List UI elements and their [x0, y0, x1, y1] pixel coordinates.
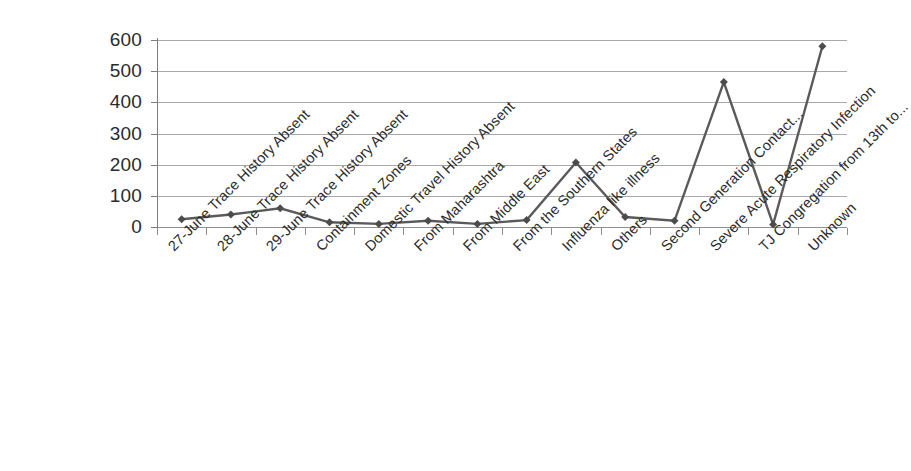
- x-tickmark-7: [502, 228, 503, 235]
- x-tickmark-0: [157, 228, 158, 235]
- x-tickmark-1: [206, 228, 207, 235]
- y-tickmark-300: [151, 134, 158, 135]
- y-tickmark-200: [151, 165, 158, 166]
- y-tickmark-400: [151, 102, 158, 103]
- x-category-label-3: Containment Zones: [313, 153, 414, 254]
- x-tickmark-4: [354, 228, 355, 235]
- x-tickmark-13: [798, 228, 799, 235]
- y-tickmark-600: [151, 40, 158, 41]
- x-tickmark-3: [305, 228, 306, 235]
- x-category-label-13: Unknown: [806, 200, 860, 254]
- y-tickmark-100: [151, 196, 158, 197]
- x-tickmark-8: [551, 228, 552, 235]
- x-category-label-9: Others: [609, 212, 651, 254]
- x-tickmark-9: [601, 228, 602, 235]
- x-tickmark-5: [403, 228, 404, 235]
- x-tickmark-2: [256, 228, 257, 235]
- x-tickmark-10: [650, 228, 651, 235]
- x-tickmark-11: [699, 228, 700, 235]
- x-category-label-6: From Middle East: [461, 162, 553, 254]
- x-category-label-5: From Maharashtra: [411, 158, 507, 254]
- y-tickmark-500: [151, 71, 158, 72]
- x-tickmark-14: [847, 228, 848, 235]
- x-tickmark-6: [453, 228, 454, 235]
- x-tickmark-12: [748, 228, 749, 235]
